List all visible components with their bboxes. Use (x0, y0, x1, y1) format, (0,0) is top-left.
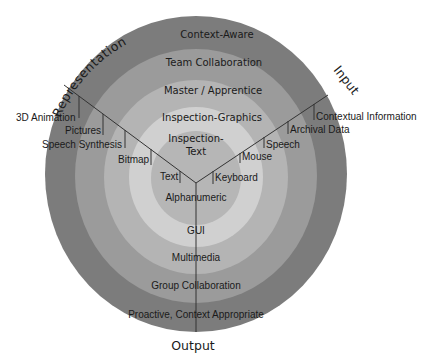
ring-label-alphanumeric: Alphanumeric (165, 192, 226, 203)
ring-label-master-apprentice: Master / Apprentice (164, 85, 262, 96)
ring-label-inspection-text-2: Text (185, 146, 206, 157)
ring-label-team-collaboration: Team Collaboration (165, 57, 262, 68)
ring-label-multimedia: Multimedia (172, 252, 221, 263)
rep-item-pictures: Pictures (65, 125, 101, 136)
input-item-contextual-information: Contextual Information (316, 111, 417, 122)
ring-label-context-aware: Context-Aware (180, 29, 253, 40)
rep-item-speech-synthesis: Speech Synthesis (42, 139, 122, 150)
input-item-keyboard: Keyboard (215, 172, 258, 183)
ring-label-proactive: Proactive, Context Appropriate (128, 309, 264, 320)
rep-item-3d-animation: 3D Animation (16, 112, 75, 123)
rep-item-text: Text (160, 171, 179, 182)
ring-label-gui: GUI (187, 225, 205, 236)
rep-item-bitmap: Bitmap (118, 154, 150, 165)
input-item-mouse: Mouse (242, 151, 272, 162)
interaction-diagram: Context-Aware Team Collaboration Master … (0, 0, 438, 359)
axis-title-output: Output (171, 338, 215, 353)
axis-title-input: Input (331, 63, 363, 98)
input-item-speech: Speech (266, 139, 300, 150)
ring-label-inspection-graphics: Inspection-Graphics (162, 112, 262, 123)
ring-label-inspection-text-1: Inspection- (168, 133, 224, 144)
input-item-archival-data: Archival Data (290, 124, 350, 135)
ring-label-group-collaboration: Group Collaboration (151, 280, 241, 291)
